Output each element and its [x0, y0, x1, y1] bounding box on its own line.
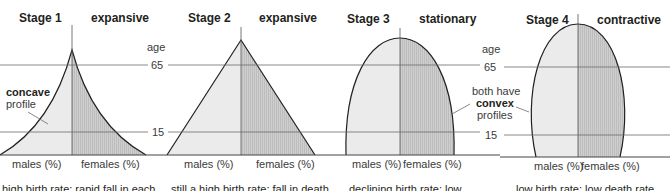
stage-2-males-label: males (%): [184, 158, 234, 170]
convex-leader-line-left: [452, 104, 470, 114]
stage-2-caption: still a high birth rate; fall in death: [171, 183, 329, 191]
convex-label-bold: convex: [476, 97, 515, 109]
stage-1-type: expansive: [91, 11, 149, 25]
age-tick-15-left: 15: [152, 126, 164, 138]
convex-label-line1: both have: [472, 85, 520, 97]
age-tick-65-left: 65: [151, 59, 163, 71]
age-axis-label-left: age: [147, 41, 165, 53]
age-tick-65-right: 65: [484, 61, 496, 73]
stage-3-pyramid: [346, 28, 454, 155]
concave-label-bold: concave: [6, 86, 50, 98]
stage-1-males-label: males (%): [12, 158, 62, 170]
stage-3-caption: declining birth rate; low: [349, 183, 462, 191]
population-pyramids-diagram: Stage 1 expansive Stage 2 expansive Stag…: [0, 0, 670, 191]
stage-3-type: stationary: [419, 12, 477, 26]
age-axis-label-right: age: [482, 43, 500, 55]
stage-4-title: Stage 4: [526, 13, 569, 27]
stage-3-males-label: males (%): [352, 158, 402, 170]
stage-3-females-label: females (%): [403, 158, 462, 170]
stage-2-females-label: females (%): [256, 158, 315, 170]
convex-leader-line-right: [516, 107, 529, 112]
age-axis-left: age 65 15: [147, 41, 168, 138]
stage-2-type: expansive: [259, 11, 317, 25]
stage-2-pyramid: [167, 27, 315, 155]
stage-1-caption: high birth rate; rapid fall in each: [2, 183, 155, 191]
convex-label-line3: profiles: [477, 109, 513, 121]
stage-1-females-label: females (%): [81, 158, 140, 170]
stage-4-females-label: females (%): [581, 160, 640, 172]
age-tick-15-right: 15: [485, 129, 497, 141]
stage-2-title: Stage 2: [188, 11, 231, 25]
stage-1-title: Stage 1: [19, 11, 62, 25]
stage-4-caption: low birth rate; low death rate: [516, 183, 654, 191]
convex-annotation: both have convex profiles: [452, 85, 529, 121]
stage-4-type: contractive: [597, 13, 661, 27]
stage-4-pyramid: [531, 14, 624, 157]
stage-4-males-label: males (%): [534, 160, 584, 172]
concave-label-profile: profile: [6, 98, 36, 110]
stage-3-title: Stage 3: [347, 12, 390, 26]
